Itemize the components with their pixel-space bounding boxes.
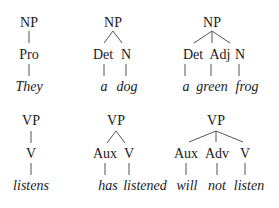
node-np: NP (104, 15, 122, 30)
branch (189, 131, 216, 142)
word-listens: listens (13, 178, 49, 193)
word-a: a (101, 79, 108, 94)
node-aux: Aux (93, 146, 117, 161)
word-frog: frog (236, 79, 259, 94)
word-green: green (196, 79, 227, 94)
tree-vp-aux-adv-v: VP Aux Adv V will not listen (174, 113, 264, 193)
node-v: V (240, 146, 250, 161)
tree-vp-aux-v: VP Aux V has listened (93, 113, 168, 193)
node-n: N (235, 47, 245, 62)
word-will: will (176, 178, 197, 193)
tree-np-det-n: NP Det N a dog (93, 15, 138, 94)
node-pro: Pro (19, 47, 38, 62)
node-det: Det (93, 47, 113, 62)
node-vp: VP (207, 113, 225, 128)
syntax-trees-diagram: NP Pro They NP Det N a dog NP Det Adj N … (0, 0, 279, 208)
node-adv: Adv (205, 146, 229, 161)
word-dog: dog (117, 79, 138, 94)
node-adj: Adj (210, 47, 231, 62)
node-det: Det (183, 47, 203, 62)
node-np: NP (20, 15, 38, 30)
node-vp: VP (107, 113, 125, 128)
tree-np-pronoun: NP Pro They (15, 15, 43, 94)
node-aux: Aux (174, 146, 198, 161)
node-vp: VP (22, 113, 40, 128)
branch (116, 131, 125, 143)
word-has: has (98, 178, 118, 193)
branch (113, 31, 122, 43)
word-listened: listened (123, 178, 168, 193)
branch (104, 31, 113, 43)
word-not: not (208, 178, 227, 193)
tree-vp-v: VP V listens (13, 113, 49, 193)
word-listen: listen (234, 178, 264, 193)
word-they: They (15, 79, 43, 94)
branch (107, 131, 116, 143)
branch (216, 131, 243, 142)
node-np: NP (203, 15, 221, 30)
branch (194, 31, 212, 43)
tree-np-det-adj-n: NP Det Adj N a green frog (183, 15, 259, 94)
node-v: V (26, 146, 36, 161)
node-n: N (121, 47, 131, 62)
branch (212, 31, 230, 43)
word-a: a (183, 79, 190, 94)
node-v: V (124, 146, 134, 161)
